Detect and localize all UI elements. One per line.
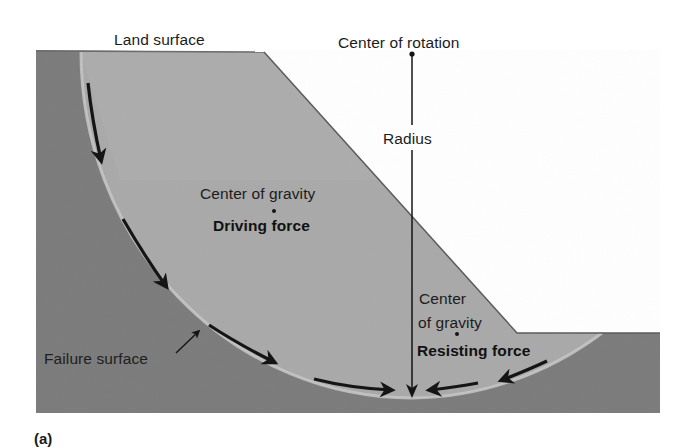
rotational-slump-diagram: Land surface Center of rotation Radius C…	[0, 0, 690, 448]
center-of-rotation-label: Center of rotation	[338, 35, 460, 51]
panel-label: (a)	[34, 430, 52, 447]
land-surface-label: Land surface	[114, 32, 205, 48]
driving-force-label: Driving force	[213, 218, 310, 234]
cog-driving-dot	[272, 209, 276, 213]
cog-resisting-label-line2: of gravity	[418, 315, 482, 331]
cog-resisting-label-line1: Center	[419, 291, 466, 307]
cog-driving-label: Center of gravity	[200, 186, 315, 202]
diagram-canvas	[0, 0, 690, 448]
radius-label: Radius	[383, 131, 432, 147]
failure-surface-label: Failure surface	[44, 351, 148, 367]
cog-resisting-dot	[455, 332, 459, 336]
resisting-force-label: Resisting force	[417, 343, 530, 359]
